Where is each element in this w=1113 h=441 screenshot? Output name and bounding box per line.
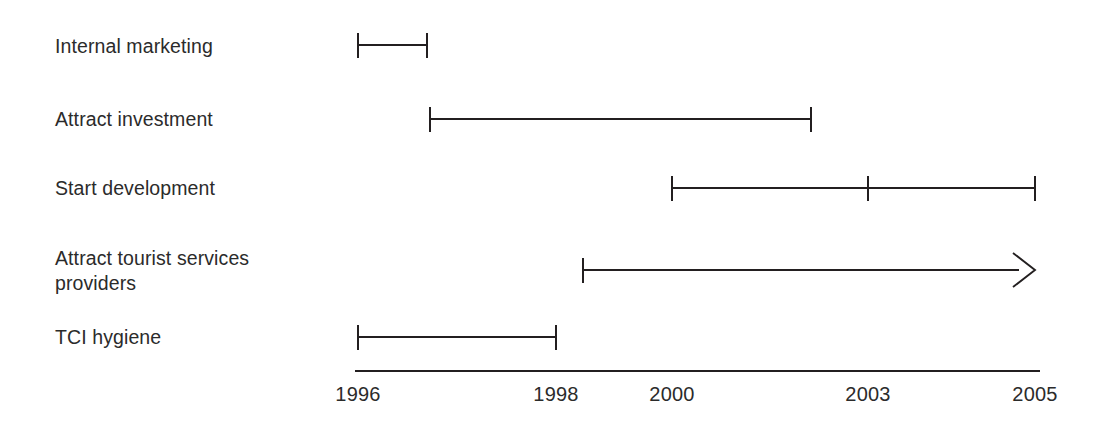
gantt-timeline-chart: Internal marketing Attract investment St… (0, 0, 1113, 441)
axis-tick-label-1996: 1996 (335, 382, 380, 406)
timeline-bar (430, 107, 811, 132)
timeline-bar (583, 253, 1035, 287)
timeline-bars-layer (0, 0, 1113, 441)
axis-tick-label-2000: 2000 (649, 382, 694, 406)
axis-tick-label-1998: 1998 (533, 382, 578, 406)
axis-tick-label-2005: 2005 (1012, 382, 1057, 406)
timeline-bar (358, 33, 427, 58)
bars-group (358, 33, 1035, 350)
timeline-bar (672, 176, 1035, 201)
axis-tick-label-2003: 2003 (845, 382, 890, 406)
timeline-bar (358, 325, 556, 350)
